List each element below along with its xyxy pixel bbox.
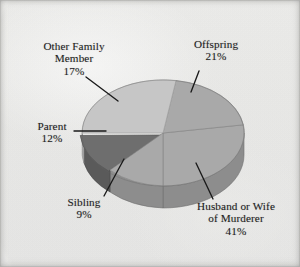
- slice-label-offspring-percent: 21%: [168, 50, 264, 62]
- slice-label-offspring-line1: Offspring: [168, 38, 264, 50]
- slice-label-parent: Parent 12%: [16, 120, 88, 145]
- slice-label-offspring: Offspring 21%: [168, 38, 264, 63]
- slice-label-parent-line1: Parent: [16, 120, 88, 132]
- slice-top-offspring: [163, 81, 243, 134]
- slice-label-sibling: Sibling 9%: [44, 196, 124, 221]
- slice-label-husband-wife-line2: of Murderer: [178, 212, 294, 224]
- slice-label-other-family: Other Family Member 17%: [22, 40, 126, 77]
- slice-label-sibling-line1: Sibling: [44, 196, 124, 208]
- slice-label-husband-wife-line1: Husband or Wife: [178, 200, 294, 212]
- leader-line-other-family: [86, 77, 118, 101]
- slice-top-other-family: [82, 80, 176, 133]
- slice-label-other-family-line1: Other Family: [22, 40, 126, 52]
- slice-label-sibling-percent: 9%: [44, 208, 124, 220]
- slice-label-other-family-line2: Member: [22, 52, 126, 64]
- slice-label-other-family-percent: 17%: [22, 65, 126, 77]
- slice-label-husband-wife-percent: 41%: [178, 225, 294, 237]
- slice-label-husband-wife: Husband or Wife of Murderer 41%: [178, 200, 294, 237]
- pie-chart-figure: Other Family Member 17% Offspring 21% Pa…: [0, 0, 300, 267]
- slice-label-parent-percent: 12%: [16, 132, 88, 144]
